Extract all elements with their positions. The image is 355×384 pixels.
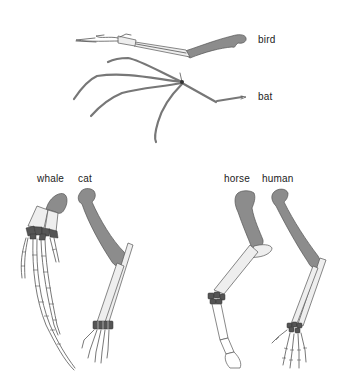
human-carpals: [287, 322, 302, 333]
horse-leg: [208, 191, 272, 368]
horse-carpals: [208, 292, 225, 304]
label-whale: whale: [37, 173, 64, 184]
label-horse: horse: [224, 173, 250, 184]
homologous-limbs-diagram: .hum { fill: #8c8c8c; stroke: #555; stro…: [0, 0, 355, 384]
label-bird: bird: [258, 34, 275, 45]
label-cat: cat: [78, 173, 92, 184]
human-arm: [272, 189, 326, 368]
bat-wing: [74, 58, 246, 142]
label-human: human: [262, 173, 294, 184]
limb-illustrations: .hum { fill: #8c8c8c; stroke: #555; stro…: [0, 0, 355, 384]
cat-carpals: [93, 321, 113, 329]
label-bat: bat: [258, 91, 273, 102]
cat-leg: [78, 189, 133, 363]
bird-wing: [76, 34, 246, 58]
whale-flipper: [21, 193, 75, 370]
